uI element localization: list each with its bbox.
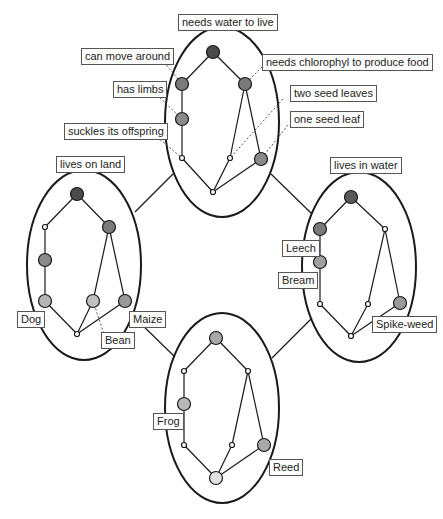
node-left-l2 [39,254,52,267]
node-has-limbs [176,113,189,126]
label-reed: Reed [269,459,303,476]
left-lattice-edges [45,194,125,334]
node-left-l1 [43,225,48,230]
bottom-lattice-edges [184,338,264,478]
node-left-r1 [103,221,116,234]
label-frog: Frog [153,413,184,430]
ellipse-connectors [134,174,312,358]
label-lives-on-land: lives on land [56,156,125,173]
node-can-move-around [176,78,189,91]
connector-top-right [271,174,312,214]
node-one-seed-leaf [255,153,268,166]
node-bottom-top [210,332,223,345]
node-bottom-l1 [182,369,187,374]
node-frog [178,398,191,411]
label-leech: Leech [282,240,320,257]
node-chlorophyl [239,78,252,91]
label-maize: Maize [129,311,166,328]
left-lattice-nodes [39,188,132,337]
node-left-bottom [75,332,80,337]
label-has-limbs: has limbs [113,81,167,98]
label-can-move-around: can move around [81,48,174,65]
connector-right-bottom [272,318,312,358]
node-dog [39,295,52,308]
label-bean: Bean [101,332,135,349]
label-one-seed-leaf: one seed leaf [290,111,364,128]
node-right-rm [366,302,371,307]
node-bottom-bottom [210,472,223,485]
label-needs-water-to-live: needs water to live [178,14,278,31]
node-spikeweed [394,297,407,310]
node-right-l3 [318,302,323,307]
node-reed [258,439,271,452]
node-bottom-r1 [246,369,251,374]
node-right-top [345,191,358,204]
label-dog: Dog [17,311,45,328]
label-lives-in-water: lives in water [330,157,402,174]
node-bottom-rm [230,443,235,448]
label-needs-chlorophyl: needs chlorophyl to produce food [262,54,433,71]
connector-top-left [135,174,173,212]
top-lattice-nodes [176,46,268,195]
label-two-seed-leaves: two seed leaves [290,85,377,102]
node-bean [87,295,100,308]
node-maize [119,295,132,308]
node-right-bottom [349,334,354,339]
top-lattice-edges [182,52,261,192]
node-right-r1 [383,227,388,232]
concept-lattice-diagram [0,0,443,519]
label-spike-weed: Spike-weed [372,316,437,333]
node-bream [314,256,327,269]
node-top-bottom [211,190,216,195]
node-leech [314,223,327,236]
label-bream: Bream [278,272,318,289]
node-suckles [180,156,185,161]
top-annotation-leaders [157,62,288,159]
label-suckles-its-offspring: suckles its offspring [64,123,168,140]
node-two-seed-leaves [228,156,233,161]
node-left-top [71,188,84,201]
node-top-top [207,46,220,59]
node-bottom-l3 [182,443,187,448]
